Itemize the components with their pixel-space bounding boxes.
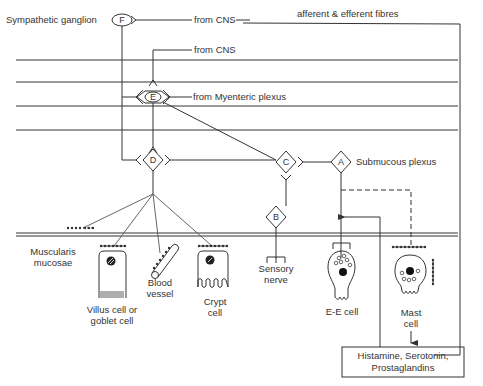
blood-vessel-label-2: vessel [147,288,174,299]
mast-cell-label-2: cell [404,318,418,329]
muscularis-nerve-terminal [67,227,95,229]
svg-text:F: F [119,15,125,25]
svg-text:B: B [273,212,279,222]
blood-vessel-label-1: Blood [148,277,172,288]
blood-vessel [152,244,179,278]
node-c: C [276,151,303,180]
ee-cell [328,243,355,299]
muscularis-label-1: Muscularis [30,246,76,257]
afferent-efferent-fibres-label: afferent & efferent fibres [297,8,399,19]
villus-cell [99,245,126,298]
from-cns-top-label: from CNS [194,14,236,25]
submucous-plexus-label: Submucous plexus [356,156,437,167]
muscularis-label-2: mucosae [34,257,73,268]
svg-text:D: D [150,155,157,165]
sympathetic-ganglion-label: Sympathetic ganglion [6,14,97,25]
node-d: D [136,149,170,171]
svg-text:C: C [283,157,290,167]
mediators-line-2: Prostaglandins [372,362,435,373]
node-e: E [136,90,170,104]
sensory-nerve-label-2: nerve [264,274,288,285]
enteric-nervous-system-diagram: Sympathetic ganglion F from CNS afferent… [0,0,483,386]
crypt-cell [198,245,228,288]
mast-cell-label-1: Mast [401,307,422,318]
svg-text:E: E [150,92,156,102]
villus-cell-label-2: goblet cell [91,315,134,326]
muscularis-mucosae-double-line [16,233,458,236]
node-b: B [266,206,286,228]
mast-cell [392,246,434,293]
crypt-cell-label-2: cell [208,307,222,318]
mediators-line-1: Histamine, Serotonin, [358,350,449,361]
villus-cell-label-1: Villus cell or [87,304,138,315]
node-a: A [331,151,351,173]
sensory-nerve-label-1: Sensory [259,263,294,274]
node-f: F [112,14,136,26]
from-myenteric-plexus-label: from Myenteric plexus [193,91,286,102]
svg-text:A: A [338,157,344,167]
ee-cell-label: E-E cell [326,306,359,317]
crypt-cell-label-1: Crypt [204,296,227,307]
from-cns-second-label: from CNS [194,44,236,55]
